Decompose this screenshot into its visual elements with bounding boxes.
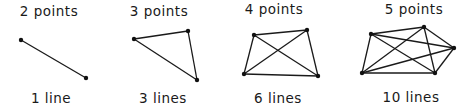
point xyxy=(186,29,190,33)
point xyxy=(433,71,437,75)
point xyxy=(84,76,88,80)
edge xyxy=(244,74,318,76)
edge xyxy=(307,30,318,76)
panel-4-top-label: 5 points xyxy=(385,1,443,17)
edge xyxy=(134,39,197,80)
graph-panel-3 xyxy=(242,28,320,78)
panel-3-bottom-label: 6 lines xyxy=(254,90,302,106)
point xyxy=(305,28,309,32)
point xyxy=(316,74,320,78)
point xyxy=(360,71,364,75)
panel-4-bottom-label: 10 lines xyxy=(383,89,440,105)
panel-3-top-label: 4 points xyxy=(245,1,303,17)
edge xyxy=(254,35,318,76)
point xyxy=(195,78,199,82)
point xyxy=(19,38,23,42)
edge xyxy=(21,40,86,78)
panel-1-bottom-label: 1 line xyxy=(31,90,71,106)
graph-panel-2 xyxy=(132,29,199,82)
point xyxy=(132,37,136,41)
edge xyxy=(188,31,197,80)
point xyxy=(422,25,426,29)
point xyxy=(252,33,256,37)
point xyxy=(369,32,373,36)
graph-panel-1 xyxy=(19,38,88,80)
edge xyxy=(134,31,188,39)
edge xyxy=(362,48,454,73)
edge xyxy=(254,30,307,35)
panel-2-top-label: 3 points xyxy=(130,3,188,19)
point xyxy=(452,46,456,50)
point xyxy=(242,72,246,76)
graph-panel-4 xyxy=(360,25,456,75)
panel-2-bottom-label: 3 lines xyxy=(139,90,187,106)
panel-1-top-label: 2 points xyxy=(20,3,78,19)
